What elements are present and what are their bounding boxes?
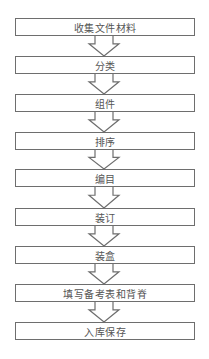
down-arrow-icon (89, 73, 119, 94)
down-arrow-icon (89, 301, 119, 322)
step-label: 组件 (95, 96, 116, 111)
step-box: 装盒 (15, 246, 195, 264)
step-label: 填写备考表和背脊 (63, 286, 147, 301)
step-classify: 分类 (15, 56, 195, 74)
step-sort: 排序 (15, 132, 195, 150)
step-label: 装盒 (95, 248, 116, 263)
step-store: 入库保存 (15, 322, 195, 340)
step-label: 排序 (95, 134, 116, 149)
step-assemble: 组件 (15, 94, 195, 112)
step-fill-forms: 填写备考表和背脊 (15, 284, 195, 302)
step-bind: 装订 (15, 208, 195, 226)
step-label: 装订 (95, 210, 116, 225)
down-arrow-icon (89, 263, 119, 284)
step-collect-materials: 收集文件材料 (15, 18, 195, 36)
step-catalog: 编目 (15, 169, 195, 187)
step-label: 分类 (95, 58, 116, 73)
down-arrow-icon (89, 149, 119, 169)
step-label: 入库保存 (84, 324, 126, 339)
down-arrow-icon (89, 111, 119, 132)
down-arrow-icon (89, 35, 119, 56)
step-label: 收集文件材料 (74, 20, 137, 35)
down-arrow-icon (89, 225, 119, 246)
step-label: 编目 (95, 171, 116, 186)
down-arrow-icon (89, 186, 119, 208)
